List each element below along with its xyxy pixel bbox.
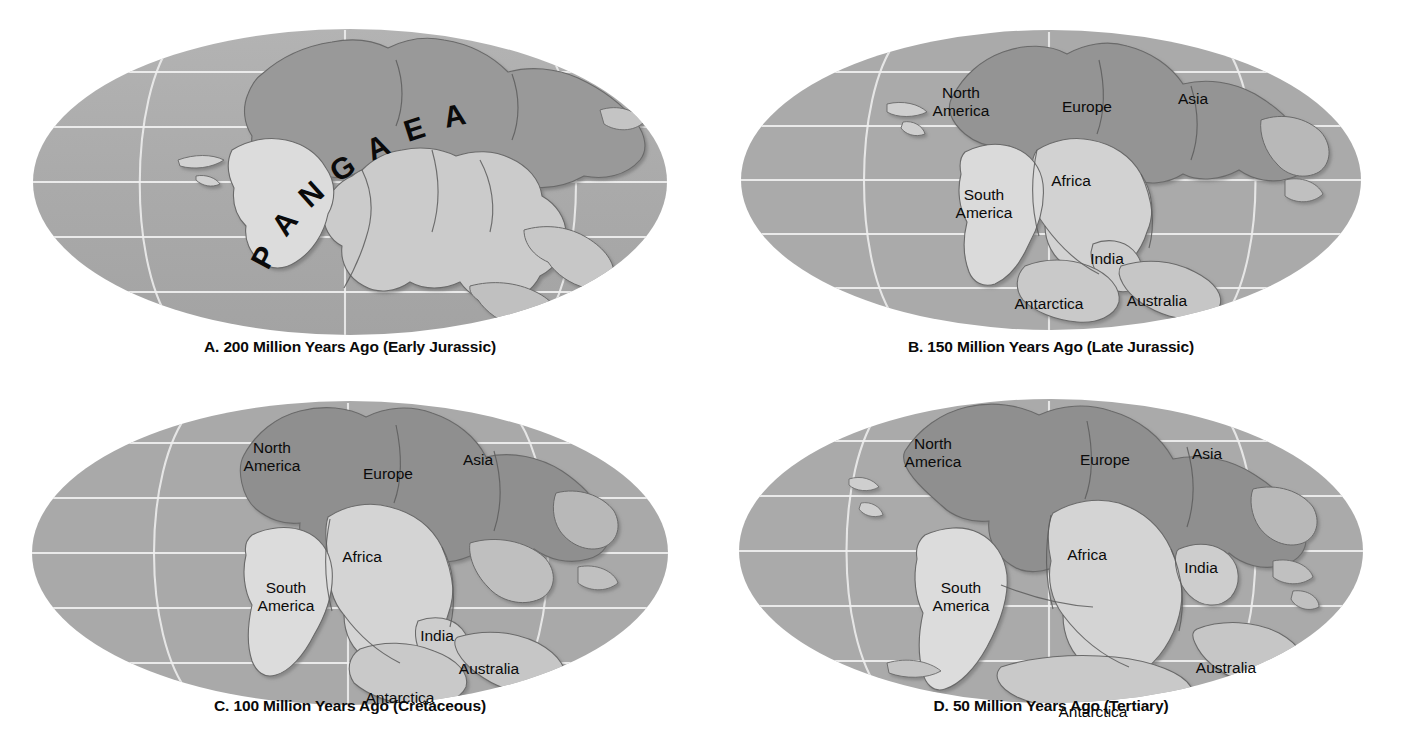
label-australia: Australia [1196,659,1257,676]
map-panel-a[interactable]: P A N G A E A A. 200 Million Years Ago (… [0,0,700,377]
label-australia: Australia [459,660,520,677]
label-australia: Australia [1127,292,1188,309]
map-a-canvas: P A N G A E A [0,0,700,345]
map-c-canvas: North America Europe Asia Africa South A… [0,385,700,730]
label-europe: Europe [1080,451,1130,468]
label-south-america-line2: America [956,204,1013,221]
label-north-america-line2: America [905,453,962,470]
label-europe: Europe [1062,98,1112,115]
label-south-america-line1: South [964,186,1005,203]
map-c-svg: North America Europe Asia Africa South A… [0,385,700,730]
label-south-america-line2: America [933,597,990,614]
label-north-america-line1: North [253,439,291,456]
label-south-america-line2: America [258,597,315,614]
label-south-america-line1: South [941,579,982,596]
label-north-america-line2: America [933,102,990,119]
map-panel-b[interactable]: North America Europe Asia Africa South A… [701,0,1401,377]
label-africa: Africa [342,548,382,565]
label-asia: Asia [463,451,494,468]
map-b-canvas: North America Europe Asia Africa South A… [701,0,1401,345]
label-asia: Asia [1178,90,1209,107]
map-d-canvas: North America Europe Asia Africa South A… [701,385,1401,730]
panel-d-caption: D. 50 Million Years Ago (Tertiary) [701,697,1401,715]
label-north-america-line2: America [244,457,301,474]
label-india: India [1184,559,1218,576]
label-south-america-line1: South [266,579,307,596]
label-asia: Asia [1192,445,1223,462]
label-africa: Africa [1051,172,1091,189]
map-b-svg: North America Europe Asia Africa South A… [701,0,1401,345]
label-africa: Africa [1067,546,1107,563]
panel-c-caption: C. 100 Million Years Ago (Cretaceous) [0,697,700,715]
label-india: India [1090,250,1124,267]
label-north-america-line1: North [942,84,980,101]
label-north-america-line1: North [914,435,952,452]
panel-a-caption: A. 200 Million Years Ago (Early Jurassic… [0,338,700,356]
label-antarctica: Antarctica [1015,295,1084,312]
map-panel-c[interactable]: North America Europe Asia Africa South A… [0,377,700,754]
map-panel-d[interactable]: North America Europe Asia Africa South A… [701,377,1401,754]
panel-b-caption: B. 150 Million Years Ago (Late Jurassic) [701,338,1401,356]
map-d-svg: North America Europe Asia Africa South A… [701,385,1401,730]
label-india: India [420,627,454,644]
map-a-svg: P A N G A E A [0,0,700,345]
label-europe: Europe [363,465,413,482]
continental-drift-figure: P A N G A E A A. 200 Million Years Ago (… [0,0,1401,754]
